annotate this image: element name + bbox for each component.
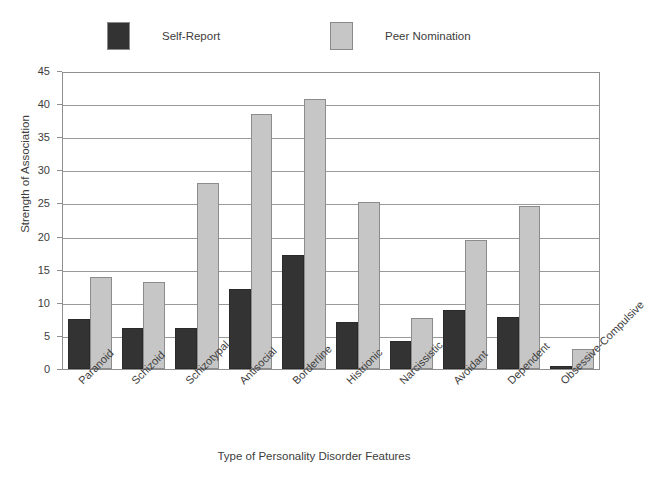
y-tick-label-5: 5 [0, 331, 50, 342]
legend-label-self-report: Self-Report [162, 30, 220, 42]
bar-antisocial-self-report [229, 289, 251, 369]
bar-schizoid-self-report [122, 328, 144, 369]
legend-entry-peer-nomination: Peer Nomination [330, 22, 471, 50]
bar-borderline-self-report [282, 255, 304, 369]
y-axis-title: Strength of Association [19, 74, 31, 274]
x-axis-tick-labels: ParanoidSchizoidSchizotypalAntisocialBor… [0, 370, 628, 460]
bar-antisocial-peer-nomination [251, 114, 273, 369]
bar-paranoid-self-report [68, 319, 90, 369]
bar-borderline-peer-nomination [304, 99, 326, 369]
legend-entry-self-report: Self-Report [107, 22, 220, 50]
x-axis-title: Type of Personality Disorder Features [0, 450, 628, 462]
bar-histrionic-self-report [336, 322, 358, 369]
bar-narcissistic-self-report [390, 341, 412, 369]
bar-avoidant-self-report [443, 310, 465, 369]
bar-schizotypal-peer-nomination [197, 183, 219, 369]
legend-label-peer-nomination: Peer Nomination [385, 30, 471, 42]
legend-swatch-peer-nomination [330, 22, 353, 50]
legend-swatch-self-report [107, 22, 130, 50]
bar-schizotypal-self-report [175, 328, 197, 369]
chart-legend: Self-Report Peer Nomination [0, 22, 628, 56]
y-tick-label-10: 10 [0, 298, 50, 309]
bar-dependent-self-report [497, 317, 519, 369]
bar-histrionic-peer-nomination [358, 202, 380, 369]
bars-layer [63, 73, 599, 369]
